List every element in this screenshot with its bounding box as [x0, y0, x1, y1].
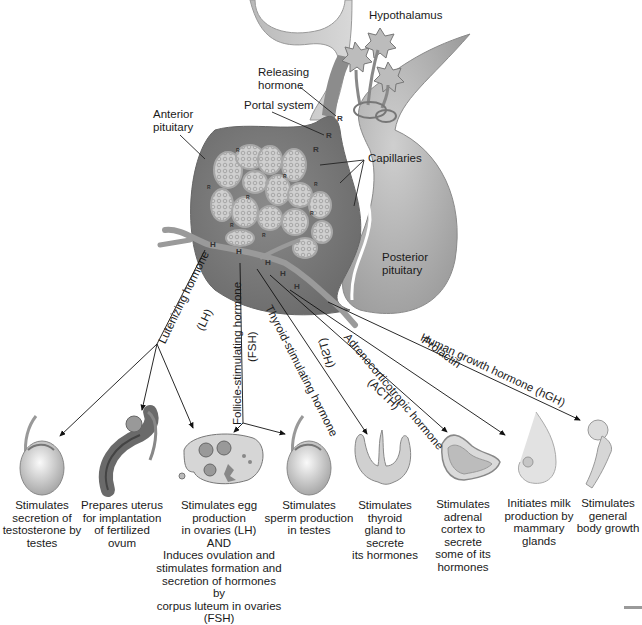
- uterus-icon: [106, 412, 156, 490]
- svg-text:H: H: [280, 269, 286, 278]
- hormone-abbr-fsh: (FSH): [246, 331, 259, 362]
- thyroid-icon: [355, 430, 411, 484]
- capillaries-label: Capillaries: [368, 152, 422, 165]
- svg-text:R: R: [230, 222, 234, 228]
- portal-system-label: Portal system: [244, 99, 314, 112]
- target-caption-mammary: Initiates milk production by mammary gla…: [502, 497, 576, 547]
- mammary-gland-icon: [518, 412, 556, 483]
- releasing-hormone-label: Releasing hormone: [258, 66, 309, 92]
- hypothalamus-label: Hypothalamus: [369, 9, 443, 22]
- svg-text:H: H: [265, 258, 271, 267]
- svg-text:R: R: [236, 147, 240, 153]
- femur-bone-icon: [586, 420, 612, 488]
- anterior-pituitary-label: Anterior pituitary: [153, 108, 193, 134]
- svg-text:H: H: [294, 282, 300, 291]
- target-caption-testosterone: Stimulates secretion of testosterone by …: [0, 499, 84, 549]
- svg-text:H: H: [236, 247, 242, 256]
- target-caption-thyroid: Stimulates thyroid gland to secrete its …: [346, 499, 424, 562]
- hormone-label-fsh: Follicle-stimulating hormone: [231, 282, 244, 425]
- svg-text:R: R: [262, 232, 266, 238]
- svg-text:H: H: [210, 240, 216, 249]
- svg-text:R: R: [310, 210, 314, 216]
- svg-text:R: R: [314, 181, 318, 187]
- svg-text:R: R: [246, 194, 250, 200]
- svg-text:R: R: [283, 173, 287, 179]
- testis-icon: [20, 416, 64, 495]
- target-caption-adrenal: Stimulates adrenal cortex to secrete som…: [430, 498, 496, 574]
- ovary-icon: [179, 434, 263, 484]
- target-caption-sperm: Stimulates sperm production in testes: [263, 499, 355, 537]
- posterior-pituitary-label: Posterior pituitary: [382, 251, 428, 277]
- svg-text:R: R: [313, 145, 319, 154]
- svg-text:R: R: [326, 131, 332, 140]
- adrenal-gland-icon: [442, 435, 500, 480]
- svg-text:R: R: [337, 114, 343, 123]
- corner-mark: [624, 606, 642, 609]
- target-caption-uterus: Prepares uterus for implantation of fert…: [80, 499, 164, 549]
- target-caption-growth: Stimulates general body growth: [574, 497, 642, 535]
- svg-text:R: R: [207, 184, 211, 190]
